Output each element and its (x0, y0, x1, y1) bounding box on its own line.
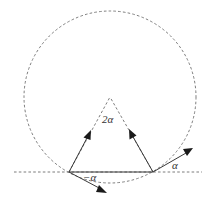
right-tangent-arrowhead-icon (183, 148, 193, 156)
left-up-arrow-shaft (69, 136, 88, 172)
central-angle-label: 2α (102, 113, 114, 125)
right-up-arrow-shaft (132, 135, 153, 172)
right-angle-label: α (172, 159, 178, 171)
left-down-arrowhead-icon (96, 185, 107, 193)
circle-angle-diagram: 2α −α α (0, 0, 213, 206)
left-up-arrowhead-icon (84, 130, 92, 140)
left-angle-label: −α (83, 171, 96, 183)
right-up-arrowhead-icon (129, 129, 137, 140)
right-tangent-arrow-shaft (153, 153, 186, 172)
